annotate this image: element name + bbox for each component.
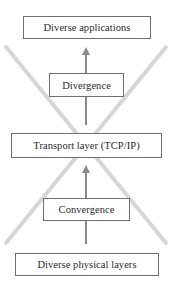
arrowhead-up-icon [82,165,90,173]
box-label: Diverse applications [43,22,130,33]
hourglass-diagram: Diverse applications Divergence Transpor… [0,0,172,288]
box-transport-layer: Transport layer (TCP/IP) [11,133,162,158]
box-convergence: Convergence [43,198,130,221]
box-label: Divergence [62,80,111,91]
box-divergence: Divergence [49,73,124,97]
box-label: Diverse physical layers [37,259,136,270]
box-diverse-physical-layers: Diverse physical layers [15,253,159,276]
box-label: Transport layer (TCP/IP) [33,140,139,151]
box-diverse-applications: Diverse applications [23,16,151,39]
arrowhead-up-icon [82,47,90,55]
box-label: Convergence [59,204,115,215]
